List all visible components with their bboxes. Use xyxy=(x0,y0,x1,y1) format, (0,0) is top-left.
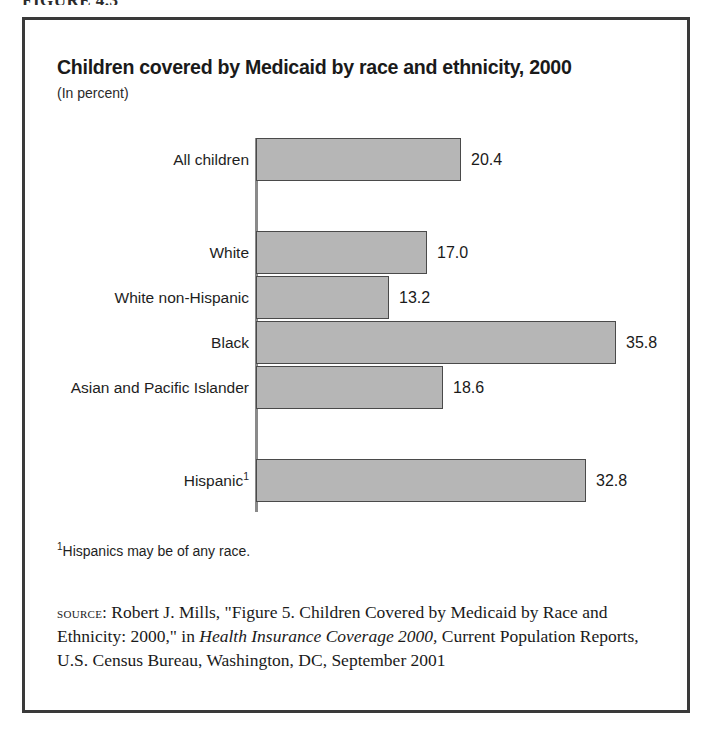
bar-chart-plot-area: All children 20.4 White 17.0 White non-H… xyxy=(25,132,687,514)
source-label: source: xyxy=(57,604,107,621)
bar-rect xyxy=(256,321,616,364)
title-block: Children covered by Medicaid by race and… xyxy=(57,55,657,101)
bar-label-footnote-marker: 1 xyxy=(243,469,249,481)
bar-value-label: 13.2 xyxy=(399,289,430,307)
chart-title: Children covered by Medicaid by race and… xyxy=(57,55,630,79)
bar-rect xyxy=(256,366,443,409)
bar-category-label: All children xyxy=(173,151,249,169)
bar-category-label: Hispanic1 xyxy=(184,472,249,490)
source-publication-title: Health Insurance Coverage 2000, xyxy=(199,626,437,646)
bar-row: White non-Hispanic 13.2 xyxy=(25,276,687,319)
bar-rect xyxy=(256,459,586,502)
bar-row: Black 35.8 xyxy=(25,321,687,364)
bar-row: Hispanic1 32.8 xyxy=(25,459,687,502)
footnote: 1Hispanics may be of any race. xyxy=(57,543,250,559)
bar-value-label: 20.4 xyxy=(471,151,502,169)
bar-value-label: 17.0 xyxy=(437,244,468,262)
bar-rect xyxy=(256,276,389,319)
bar-value-label: 18.6 xyxy=(453,379,484,397)
bar-rect xyxy=(256,231,427,274)
figure-number-header: FIGURE 4.3 xyxy=(22,0,119,5)
bar-category-label: White xyxy=(209,244,249,262)
bar-category-label: Asian and Pacific Islander xyxy=(71,379,249,397)
chart-subtitle: (In percent) xyxy=(57,85,657,101)
bar-category-label: White non-Hispanic xyxy=(115,289,249,307)
source-citation: source: Robert J. Mills, "Figure 5. Chil… xyxy=(57,600,667,672)
bar-row: White 17.0 xyxy=(25,231,687,274)
bar-row: All children 20.4 xyxy=(25,138,687,181)
bar-row: Asian and Pacific Islander 18.6 xyxy=(25,366,687,409)
bar-category-label: Black xyxy=(211,334,249,352)
footnote-text: Hispanics may be of any race. xyxy=(63,543,251,559)
bar-value-label: 35.8 xyxy=(626,334,657,352)
figure-frame: Children covered by Medicaid by race and… xyxy=(22,17,690,713)
bar-value-label: 32.8 xyxy=(596,472,627,490)
bar-rect xyxy=(256,138,461,181)
